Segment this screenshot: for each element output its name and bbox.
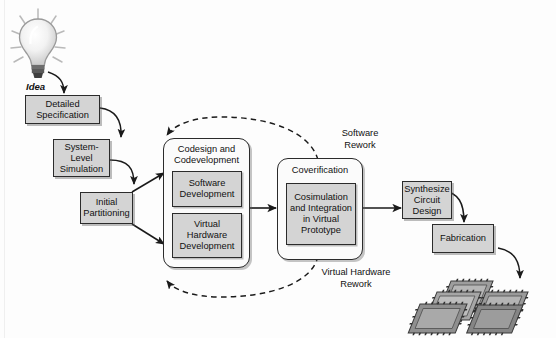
box-detailed-specification[interactable]: Detailed Specification [25,95,100,124]
box-synthesize-circuit-design[interactable]: Synthesize Circuit Design [402,181,452,219]
box-virtual-hardware-development[interactable]: Virtual Hardware Development [172,213,242,258]
box-software-development[interactable]: Software Development [172,171,242,207]
arrow-partitioning-to-hardware [132,224,164,244]
arrow-partitioning-to-software [132,173,164,192]
box-fabrication[interactable]: Fabrication [432,224,494,253]
label-software-rework: Software Rework [325,128,395,151]
box-initial-partitioning[interactable]: Initial Partitioning [80,192,133,224]
label-virtual-hardware-rework: Virtual Hardware Rework [303,267,409,290]
lightbulb-icon [11,9,65,78]
arrow-spec-to-simulation [100,108,121,137]
figure-canvas: Idea Detailed Specification System- Leve… [0,0,556,338]
group-codesign-codevelopment[interactable]: Codesign and Codevelopment Software Deve… [163,138,250,268]
arrow-idea-to-spec [48,72,64,93]
arrow-fabrication-to-chips [498,248,520,278]
group-title-codesign: Codesign and Codevelopment [164,144,249,166]
group-title-coverification: Coverification [278,165,362,176]
fabricated-chips [405,279,531,335]
box-system-level-simulation[interactable]: System- Level Simulation [53,139,110,177]
group-coverification[interactable]: Coverification Cosimulation and Integrat… [277,158,363,260]
idea-label: Idea [26,81,45,92]
arrow-simulation-to-partitioning [110,160,134,184]
box-cosimulation-integration[interactable]: Cosimulation and Integration in Virtual … [286,183,356,245]
